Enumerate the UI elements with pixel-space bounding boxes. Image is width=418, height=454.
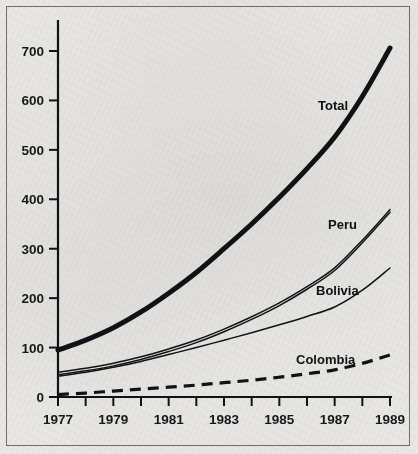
y-tick-label: 600 <box>21 93 44 108</box>
series-label-peru: Peru <box>328 217 357 232</box>
y-tick-label: 400 <box>21 192 44 207</box>
y-tick-label: 100 <box>21 341 44 356</box>
y-tick-label: 700 <box>21 44 44 59</box>
x-axis-ticks <box>58 397 390 406</box>
chart-axes <box>49 20 392 406</box>
series-label-bolivia: Bolivia <box>316 283 359 298</box>
x-tick-label: 1977 <box>43 412 73 427</box>
x-tick-label: 1987 <box>320 412 350 427</box>
x-axis-tick-labels: 1977197919811983198519871989 <box>43 412 405 427</box>
x-tick-label: 1989 <box>375 412 405 427</box>
series-label-colombia: Colombia <box>296 352 356 367</box>
x-tick-label: 1981 <box>154 412 185 427</box>
y-tick-label: 0 <box>36 390 44 405</box>
y-axis-tick-labels: 0100200300400500600700 <box>21 44 44 405</box>
y-tick-label: 200 <box>21 291 44 306</box>
x-tick-label: 1985 <box>264 412 295 427</box>
line-chart: 0100200300400500600700 19771979198119831… <box>0 0 418 454</box>
series-label-total: Total <box>318 98 348 113</box>
x-tick-label: 1983 <box>209 412 240 427</box>
y-axis-ticks <box>49 51 58 397</box>
y-tick-label: 300 <box>21 242 44 257</box>
series-annotations: Total Peru Bolivia Colombia <box>296 98 359 367</box>
y-tick-label: 500 <box>21 143 44 158</box>
x-tick-label: 1979 <box>98 412 128 427</box>
chart-page: 0100200300400500600700 19771979198119831… <box>0 0 418 454</box>
